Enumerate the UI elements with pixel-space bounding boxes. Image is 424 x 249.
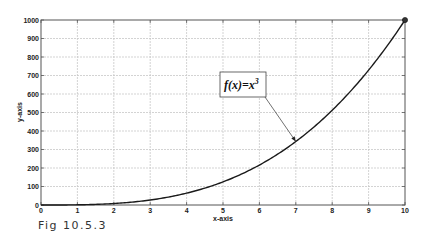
figure-caption: Fig 10.5.3 <box>38 219 107 232</box>
y-tick-label: 100 <box>27 183 39 190</box>
y-tick-label: 300 <box>27 146 39 153</box>
grid-lines <box>41 20 405 205</box>
chart: 0123456789100100200300400500600700800900… <box>0 0 424 249</box>
x-tick-label: 7 <box>294 207 298 214</box>
x-axis-label: x-axis <box>213 215 233 222</box>
x-tick-label: 4 <box>185 207 189 214</box>
y-tick-label: 700 <box>27 72 39 79</box>
x-tick-label: 6 <box>257 207 261 214</box>
annotation-arrow <box>265 97 296 142</box>
y-tick-label: 800 <box>27 54 39 61</box>
end-point-marker <box>402 17 407 22</box>
x-tick-label: 0 <box>39 207 43 214</box>
arrow-head-icon <box>291 136 295 141</box>
y-tick-label: 600 <box>27 91 39 98</box>
x-tick-label: 1 <box>75 207 79 214</box>
y-tick-label: 500 <box>27 109 39 116</box>
y-tick-label: 1000 <box>23 17 39 24</box>
x-tick-label: 8 <box>330 207 334 214</box>
annotation-text: f(x)=x3 <box>224 77 259 92</box>
x-tick-label: 2 <box>112 207 116 214</box>
x-tick-label: 10 <box>401 207 409 214</box>
y-tick-label: 900 <box>27 35 39 42</box>
y-tick-label: 400 <box>27 128 39 135</box>
y-tick-label: 200 <box>27 165 39 172</box>
x-tick-label: 3 <box>148 207 152 214</box>
y-axis-label: y-axis <box>16 102 24 122</box>
y-tick-label: 0 <box>35 202 39 209</box>
x-tick-label: 5 <box>221 207 225 214</box>
x-tick-label: 9 <box>367 207 371 214</box>
